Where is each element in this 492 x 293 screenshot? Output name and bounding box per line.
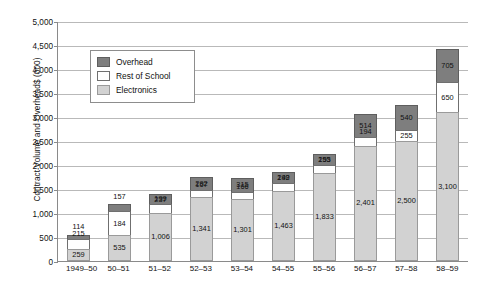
bar-segment-rest[interactable]: 650 [436,82,459,113]
bar-segment-label: 215 [72,230,84,237]
bar-segment-label: 167 [195,181,207,188]
x-axis-label: 1949–50 [66,264,89,273]
bar-segment-label: 650 [441,94,453,101]
x-axis-label: 57–58 [395,264,418,273]
y-axis-tick-label: 3,000 [33,114,54,123]
bar-segment-label: 2,401 [356,200,375,207]
legend-swatch-electronics-icon [97,85,110,95]
bar-segment-label: 157 [113,193,125,200]
bar-segment-label: 535 [113,244,125,251]
bar-segment-label: 184 [113,220,125,227]
bar-segment-elec[interactable]: 2,500 [395,141,418,261]
bar-segment-rest[interactable]: 184 [108,211,131,237]
bar-segment-label: 199 [154,195,166,202]
x-axis-label: 50–51 [107,264,130,273]
bar-segment-label: 540 [400,114,412,121]
bar-segment-label: 255 [400,132,412,139]
bar-segment-elec[interactable]: 3,100 [436,112,459,261]
y-axis-tick-label: 1,500 [33,186,54,195]
bar-group[interactable]: 2491921,463 [272,22,295,261]
y-axis-tick-label: 1,000 [33,210,54,219]
bar-segment-elec[interactable]: 2,401 [354,146,377,261]
legend-swatch-rest-of-school-icon [97,71,110,81]
bar-segment-label: 194 [359,128,371,135]
y-axis-tick-label: 4,500 [33,42,54,51]
bar-segment-elec[interactable]: 1,833 [313,173,336,261]
x-axis-label: 54–55 [272,264,295,273]
bar-segment-label: 1,301 [233,226,252,233]
bar-segment-label: 1,833 [315,213,334,220]
bar-segment-label: 2,500 [397,197,416,204]
y-axis-tick-label: 500 [39,234,53,243]
bar-segment-label: 166 [236,183,248,190]
legend-label-electronics: Electronics [116,85,157,95]
legend-label-rest-of-school: Rest of School [116,71,170,81]
x-axis-label: 52–53 [189,264,212,273]
legend-swatch-overhead-icon [97,57,110,67]
bar-group[interactable]: 5402552,500 [395,22,418,261]
y-axis-tick-label: 4,000 [33,66,54,75]
y-axis-tick-label: 2,000 [33,162,54,171]
bar-segment-label: 1,463 [274,222,293,229]
x-axis-labels: 1949–5050–5151–5252–5353–5454–5555–5656–… [57,264,468,273]
y-axis-tick-label: 3,500 [33,90,54,99]
x-axis-label: 55–56 [313,264,336,273]
bar-segment-label: 192 [277,174,289,181]
bar-group[interactable]: 114215259 [67,22,90,261]
chart-legend: Overhead Rest of School Electronics [90,50,195,103]
bar-segment-elec[interactable]: 259 [67,249,90,261]
bar-segment-overhead[interactable]: 540 [395,105,418,131]
bar-segment-overhead[interactable]: 705 [436,49,459,83]
legend-item-overhead: Overhead [97,55,188,69]
legend-label-overhead: Overhead [116,57,153,67]
bar-group[interactable]: 7056503,100 [436,22,459,261]
bar-segment-label: 195 [318,156,330,163]
bar-group[interactable]: 2531951,833 [313,22,336,261]
x-axis-label: 51–52 [148,264,171,273]
x-axis-label: 58–59 [436,264,459,273]
bar-segment-elec[interactable]: 535 [108,235,131,261]
y-axis-tick-label: 5,000 [33,18,54,27]
x-axis-label: 53–54 [230,264,253,273]
bar-group[interactable]: 5141942,401 [354,22,377,261]
legend-item-rest-of-school: Rest of School [97,69,188,83]
bar-segment-elec[interactable]: 1,301 [231,199,254,261]
stacked-bar-chart: Contract Volume and Overhead$ (000) 0500… [0,0,492,293]
bar-segment-elec[interactable]: 1,006 [149,213,172,261]
bar-segment-elec[interactable]: 1,341 [190,197,213,261]
x-axis-label: 56–57 [354,264,377,273]
bar-segment-elec[interactable]: 1,463 [272,191,295,261]
bar-segment-label: 3,100 [438,183,457,190]
bar-segment-label: 1,341 [192,225,211,232]
bar-segment-label: 259 [72,251,84,258]
legend-item-electronics: Electronics [97,83,188,97]
bar-segment-label: 705 [441,62,453,69]
y-axis-tick-mark [54,262,58,263]
y-axis-tick-label: 2,500 [33,138,54,147]
bar-segment-label: 1,006 [151,233,170,240]
y-axis-tick-label: 0 [48,258,53,267]
bar-group[interactable]: 3151661,301 [231,22,254,261]
